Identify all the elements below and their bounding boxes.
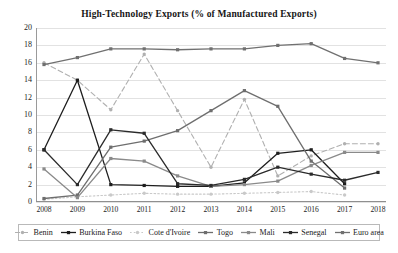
data-point <box>376 142 379 145</box>
y-axis-tick-label: 10 <box>6 111 32 119</box>
data-point <box>276 180 279 183</box>
legend-label: Mali <box>260 228 275 237</box>
legend-item-cote-d-ivoire[interactable]: Cote d'Ivoire <box>129 228 190 237</box>
data-point <box>109 146 112 149</box>
data-point <box>343 193 346 196</box>
data-point <box>176 192 179 195</box>
y-axis-tick-label: 2 <box>6 181 32 189</box>
series-lines <box>36 28 386 202</box>
y-axis-tick-label: 0 <box>6 198 32 206</box>
data-point <box>276 105 279 108</box>
legend-item-mali[interactable]: Mali <box>240 228 275 237</box>
y-axis-tick-label: 8 <box>6 128 32 136</box>
x-axis-labels: 2008200920102011201220132014201520162017… <box>36 205 386 217</box>
legend-item-senegal[interactable]: Senegal <box>282 228 327 237</box>
data-point <box>343 182 346 185</box>
data-point <box>310 160 313 163</box>
data-point <box>143 52 146 55</box>
data-point <box>243 98 246 101</box>
data-point <box>376 171 379 174</box>
legend-item-benin[interactable]: Benin <box>14 228 53 237</box>
data-point <box>143 132 146 135</box>
data-point <box>176 109 179 112</box>
data-point <box>176 48 179 51</box>
data-point <box>209 166 212 169</box>
data-point <box>310 42 313 45</box>
legend-marker-icon <box>197 228 214 237</box>
data-point <box>310 154 313 157</box>
data-point <box>243 89 246 92</box>
legend-item-togo[interactable]: Togo <box>197 228 233 237</box>
data-point <box>176 129 179 132</box>
legend-label: Cote d'Ivoire <box>149 228 191 237</box>
legend-marker-icon <box>129 228 146 237</box>
x-axis-tick-label: 2014 <box>237 205 252 214</box>
legend-marker-icon <box>240 228 257 237</box>
data-point <box>310 190 313 193</box>
data-point <box>243 178 246 181</box>
data-point <box>176 174 179 177</box>
legend-item-euro-area[interactable]: Euro area <box>334 228 384 237</box>
data-point <box>42 63 45 66</box>
series-cote-d-ivoire <box>42 190 346 201</box>
legend-label: Togo <box>217 228 233 237</box>
data-point <box>143 184 146 187</box>
legend-marker-icon <box>14 228 31 237</box>
data-point <box>143 140 146 143</box>
data-point <box>310 164 313 167</box>
legend-marker-icon <box>334 228 351 237</box>
data-point <box>343 57 346 60</box>
y-axis-tick-label: 18 <box>6 41 32 49</box>
y-axis-tick-label: 4 <box>6 163 32 171</box>
data-point <box>76 196 79 199</box>
data-point <box>209 47 212 50</box>
data-point <box>42 197 45 200</box>
data-point <box>42 167 45 170</box>
data-point <box>310 173 313 176</box>
series-euro-area <box>42 42 379 66</box>
y-axis-tick-label: 6 <box>6 146 32 154</box>
data-point <box>109 157 112 160</box>
y-axis-tick-label: 16 <box>6 59 32 67</box>
data-point <box>209 192 212 195</box>
data-point <box>109 193 112 196</box>
x-axis-tick-label: 2017 <box>337 205 352 214</box>
data-point <box>209 109 212 112</box>
legend-marker-icon <box>60 228 77 237</box>
x-axis-tick-label: 2010 <box>103 205 118 214</box>
y-axis-tick-label: 14 <box>6 76 32 84</box>
x-axis-tick-label: 2016 <box>304 205 319 214</box>
data-point <box>42 148 45 151</box>
data-point <box>276 44 279 47</box>
legend-item-burkina-faso[interactable]: Burkina Faso <box>60 228 122 237</box>
data-point <box>376 151 379 154</box>
x-axis-tick-label: 2012 <box>170 205 185 214</box>
data-point <box>276 174 279 177</box>
data-point <box>276 191 279 194</box>
data-point <box>243 192 246 195</box>
data-point <box>76 183 79 186</box>
data-point <box>276 152 279 155</box>
data-point <box>76 79 79 82</box>
chart-legend: BeninBurkina FasoCote d'IvoireTogoMaliSe… <box>18 224 380 241</box>
data-point <box>343 186 346 189</box>
x-axis-tick-label: 2015 <box>270 205 285 214</box>
data-point <box>376 61 379 64</box>
chart-container: High-Technology Exports (% of Manufactur… <box>0 0 398 253</box>
x-axis-tick-label: 2009 <box>70 205 85 214</box>
data-point <box>109 47 112 50</box>
data-point <box>176 182 179 185</box>
data-point <box>109 183 112 186</box>
legend-label: Benin <box>34 228 53 237</box>
y-axis-tick-label: 12 <box>6 94 32 102</box>
data-point <box>143 47 146 50</box>
chart-title: High-Technology Exports (% of Manufactur… <box>0 9 398 19</box>
data-point <box>276 166 279 169</box>
data-point <box>310 148 313 151</box>
plot-area <box>36 28 386 202</box>
data-point <box>143 192 146 195</box>
data-point <box>209 184 212 187</box>
data-point <box>109 128 112 131</box>
data-point <box>243 183 246 186</box>
x-axis-tick-label: 2013 <box>203 205 218 214</box>
